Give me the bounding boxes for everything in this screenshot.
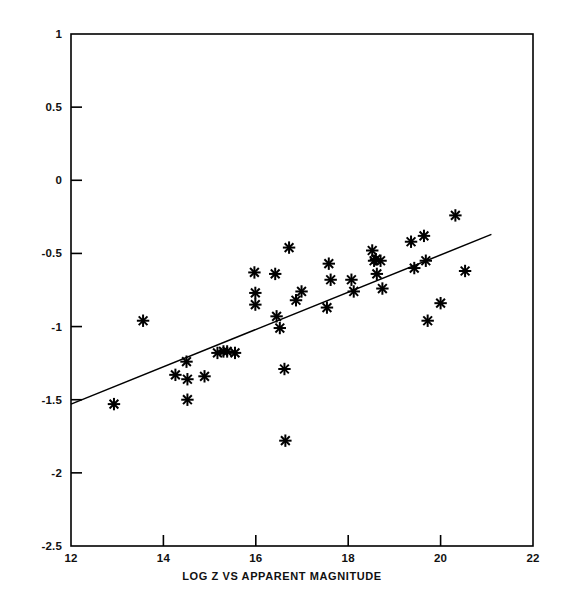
data-point-marker <box>345 274 357 286</box>
asterisk-center <box>370 249 374 253</box>
data-point-marker <box>169 369 181 381</box>
data-point-marker <box>283 241 295 253</box>
data-point-marker <box>323 257 335 269</box>
scatter-plot-figure: 10.50-0.5-1-1.5-2-2.5 121416182022 LOG Z… <box>0 0 564 611</box>
x-tick-label: 18 <box>342 552 355 564</box>
asterisk-center <box>203 374 207 378</box>
data-point-marker <box>324 274 336 286</box>
asterisk-center <box>174 373 178 377</box>
y-tick-label: -1 <box>51 321 62 333</box>
data-point-marker <box>371 268 383 280</box>
data-point-marker <box>249 287 261 299</box>
asterisk-center <box>426 319 430 323</box>
asterisk-center <box>439 301 443 305</box>
asterisk-center <box>325 306 329 310</box>
asterisk-center <box>453 213 457 217</box>
data-point-marker <box>269 268 281 280</box>
data-point-marker <box>249 298 261 310</box>
data-point-marker <box>248 266 260 278</box>
asterisk-center <box>278 326 282 330</box>
x-tick-label: 20 <box>434 552 447 564</box>
asterisk-center <box>275 314 279 318</box>
data-point-marker <box>421 315 433 327</box>
data-point-marker <box>279 434 291 446</box>
data-point-marker <box>408 262 420 274</box>
y-tick-label: -0.5 <box>41 247 62 259</box>
y-axis-ticks <box>71 107 82 473</box>
asterisk-center <box>379 259 383 263</box>
asterisk-center <box>283 439 287 443</box>
data-point-marker <box>348 285 360 297</box>
data-point-marker <box>270 310 282 322</box>
asterisk-center <box>300 290 304 294</box>
asterisk-center <box>352 290 356 294</box>
asterisk-center <box>350 278 354 282</box>
data-point-marker <box>434 297 446 309</box>
asterisk-center <box>253 303 257 307</box>
data-point-marker <box>459 265 471 277</box>
y-tick-label: 0 <box>55 174 62 186</box>
asterisk-center <box>253 271 257 275</box>
y-tick-label: -2.5 <box>41 540 62 552</box>
y-tick-label: 1 <box>55 28 62 40</box>
asterisk-center <box>412 266 416 270</box>
data-point-marker <box>376 282 388 294</box>
asterisk-center <box>327 262 331 266</box>
asterisk-center <box>186 398 190 402</box>
data-point-marker <box>180 355 192 367</box>
asterisk-center <box>233 351 237 355</box>
data-point-marker <box>405 236 417 248</box>
asterisk-center <box>294 298 298 302</box>
data-point-marker <box>274 322 286 334</box>
data-point-marker <box>449 209 461 221</box>
x-axis-ticks <box>163 535 440 546</box>
data-point-marker <box>181 373 193 385</box>
asterisk-center <box>225 350 229 354</box>
asterisk-center <box>185 360 189 364</box>
data-point-marker <box>418 230 430 242</box>
data-point-marker <box>108 398 120 410</box>
data-point-marker <box>278 363 290 375</box>
asterisk-center <box>380 287 384 291</box>
asterisk-center <box>463 269 467 273</box>
x-tick-label: 22 <box>526 552 539 564</box>
asterisk-center <box>141 319 145 323</box>
data-point-marker <box>374 255 386 267</box>
asterisk-center <box>375 272 379 276</box>
x-tick-label: 16 <box>249 552 262 564</box>
plot-canvas <box>0 0 564 611</box>
data-point-marker <box>198 370 210 382</box>
data-point-marker <box>229 347 241 359</box>
asterisk-center <box>186 377 190 381</box>
x-tick-label: 14 <box>157 552 170 564</box>
y-tick-label: -1.5 <box>41 394 62 406</box>
y-tick-label: 0.5 <box>45 101 62 113</box>
y-tick-label: -2 <box>51 467 62 479</box>
asterisk-center <box>424 259 428 263</box>
asterisk-center <box>422 234 426 238</box>
data-point-marker <box>137 315 149 327</box>
asterisk-center <box>253 291 257 295</box>
x-axis-title: LOG Z VS APPARENT MAGNITUDE <box>182 570 382 582</box>
asterisk-center <box>287 246 291 250</box>
asterisk-center <box>329 278 333 282</box>
asterisk-center <box>273 272 277 276</box>
asterisk-center <box>409 240 413 244</box>
data-points <box>108 209 472 447</box>
data-point-marker <box>181 394 193 406</box>
data-point-marker <box>290 294 302 306</box>
x-tick-label: 12 <box>64 552 77 564</box>
data-point-marker <box>295 285 307 297</box>
asterisk-center <box>283 367 287 371</box>
asterisk-center <box>112 402 116 406</box>
data-point-marker <box>321 301 333 313</box>
data-point-marker <box>420 255 432 267</box>
